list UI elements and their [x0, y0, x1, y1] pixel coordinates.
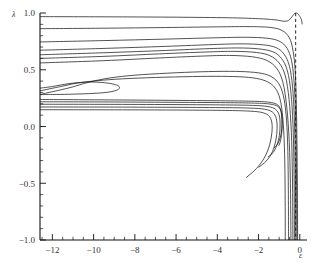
x-tick-label: −8: [130, 245, 140, 255]
y-tick-label: 0.5: [24, 65, 36, 75]
y-axis-title: λ: [11, 10, 16, 19]
x-axis-title: ε: [299, 251, 303, 260]
x-tick-label: −2: [254, 245, 264, 255]
curve-branch-11-band: [40, 99, 282, 145]
curve-branch-01: [40, 13, 302, 24]
contour-plot: −12−10−8−6−4−20−1.0−0.50.00.51.0 λ ε: [0, 0, 313, 263]
curve-branch-12-band: [40, 102, 282, 148]
x-tick-label: −10: [87, 245, 102, 255]
axes-layer: [40, 13, 307, 240]
curve-branch-06: [40, 51, 293, 240]
y-tick-label: −0.5: [19, 179, 36, 189]
curve-branch-15-band: [40, 110, 272, 178]
curves-layer: [40, 13, 302, 240]
curve-branch-08-loop-outer: [40, 71, 289, 240]
curve-branch-02: [40, 27, 298, 240]
curve-branch-13-band: [40, 104, 280, 157]
curve-branch-03: [40, 37, 297, 240]
x-tick-label: −12: [45, 245, 59, 255]
y-tick-label: 0.0: [24, 122, 36, 132]
y-tick-label: 1.0: [24, 8, 36, 18]
y-tick-label: −1.0: [19, 235, 36, 245]
plot-canvas: −12−10−8−6−4−20−1.0−0.50.00.51.0 λ ε: [0, 0, 313, 263]
x-tick-label: −6: [171, 245, 181, 255]
axis-tick-labels: −12−10−8−6−4−20−1.0−0.50.00.51.0: [19, 8, 303, 255]
curve-branch-14-band: [40, 107, 277, 167]
x-tick-label: −4: [213, 245, 223, 255]
